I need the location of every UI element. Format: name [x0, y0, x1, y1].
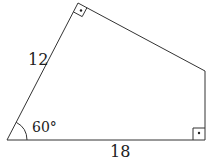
side-label-bottom: 18: [110, 142, 130, 159]
right-angle-marker-top: [73, 8, 87, 17]
quadrilateral-diagram: 12 18 60°: [0, 0, 213, 159]
side-label-left: 12: [28, 50, 48, 69]
angle-arc-60: [16, 122, 27, 140]
angle-label: 60°: [32, 119, 57, 135]
right-angle-marker-bottom-right: [193, 128, 205, 140]
